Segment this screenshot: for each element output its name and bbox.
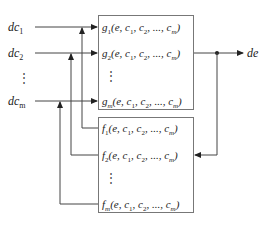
feedback-wire-fm (60, 102, 98, 204)
feedback-wire-to-f2 (195, 53, 217, 155)
input-label-dcm: dcm (8, 94, 26, 110)
input-ellipsis: ⋮ (18, 71, 30, 85)
input-label-dc2: dc2 (8, 46, 23, 62)
feedback-wire-f2 (71, 54, 98, 155)
block-diagram: dc1 dc2 ⋮ dcm de g1(e, c1, c2, ..., cm) … (0, 0, 266, 226)
feedback-wire-f1 (82, 28, 98, 128)
output-label-de: de (247, 46, 259, 60)
g-ellipsis: ⋮ (105, 69, 117, 83)
f-ellipsis: ⋮ (105, 171, 117, 185)
input-label-dc1: dc1 (8, 20, 23, 36)
